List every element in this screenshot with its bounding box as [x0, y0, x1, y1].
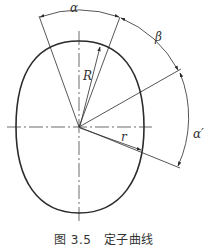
- alpha-left-ray: [39, 16, 79, 127]
- stator-curve-diagram: α β α′ R r: [0, 0, 208, 249]
- R-arrow: [80, 47, 100, 126]
- r-label: r: [121, 130, 128, 144]
- figure-caption: 图 3.5 定子曲线: [0, 230, 208, 247]
- r-arrow: [80, 128, 141, 150]
- alpha-prime-label: α′: [193, 127, 204, 141]
- beta-label: β: [154, 30, 162, 44]
- alpha-prime-arc: [178, 73, 189, 166]
- alpha-arc: [40, 10, 119, 17]
- beta-arc: [121, 18, 178, 70]
- alpha-label: α: [70, 1, 78, 15]
- beta-lower-ray: [79, 69, 181, 127]
- R-label: R: [82, 69, 92, 83]
